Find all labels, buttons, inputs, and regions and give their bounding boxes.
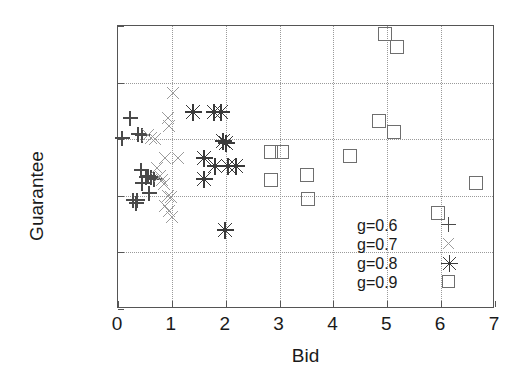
data-point-asterisk bbox=[216, 221, 233, 238]
x-axis-title: Bid bbox=[117, 345, 494, 367]
data-point-asterisk bbox=[206, 158, 223, 175]
data-point-cross bbox=[158, 150, 173, 165]
x-axis-tick bbox=[172, 301, 173, 307]
x-axis-tick-label: 6 bbox=[435, 314, 446, 333]
data-point-plus bbox=[115, 130, 130, 145]
data-point-square bbox=[300, 191, 315, 206]
gridline-vertical bbox=[333, 26, 334, 307]
data-point-cross bbox=[144, 130, 159, 145]
data-point-plus bbox=[139, 170, 154, 185]
x-axis-tick-label: 0 bbox=[112, 314, 123, 333]
data-point-square bbox=[264, 173, 279, 188]
legend-item-g-0-6: g=0.6 bbox=[357, 216, 397, 235]
data-point-cross bbox=[140, 127, 155, 142]
data-point-plus bbox=[135, 176, 150, 191]
data-point-plus bbox=[144, 170, 159, 185]
data-point-cross bbox=[157, 177, 172, 192]
x-axis-tick-label: 7 bbox=[489, 314, 500, 333]
y-axis-title: Guarantee bbox=[26, 151, 48, 241]
data-point-cross bbox=[155, 173, 170, 188]
data-point-asterisk bbox=[196, 149, 213, 166]
plot-area bbox=[117, 25, 494, 308]
data-point-square bbox=[264, 144, 279, 159]
legend-label: g=0.9 bbox=[357, 275, 397, 291]
data-point-cross bbox=[158, 198, 173, 213]
x-axis-tick bbox=[495, 301, 496, 307]
scatter-chart: 00.20.40.60.81 01234567 Guarantee Bid g=… bbox=[0, 0, 525, 392]
data-point-square bbox=[372, 113, 387, 128]
data-point-square bbox=[389, 40, 404, 55]
data-point-asterisk bbox=[228, 158, 245, 175]
legend-item-g-0-7: g=0.7 bbox=[357, 235, 397, 254]
x-axis-tick-label: 1 bbox=[166, 314, 177, 333]
data-point-plus bbox=[126, 193, 141, 208]
gridline-vertical bbox=[172, 26, 173, 307]
x-axis-tick bbox=[118, 301, 119, 307]
y-axis-tick bbox=[118, 196, 124, 197]
legend-label: g=0.7 bbox=[357, 237, 397, 253]
legend-marker-asterisk-icon bbox=[441, 255, 459, 273]
data-point-plus bbox=[141, 168, 156, 183]
data-point-square bbox=[386, 125, 401, 140]
x-axis-tick bbox=[280, 301, 281, 307]
data-point-cross bbox=[153, 168, 168, 183]
data-point-asterisk bbox=[213, 104, 230, 121]
gridline-horizontal bbox=[118, 83, 493, 84]
data-point-cross bbox=[165, 85, 180, 100]
x-axis-tick bbox=[226, 301, 227, 307]
data-point-square bbox=[275, 144, 290, 159]
y-axis-tick bbox=[118, 252, 124, 253]
data-point-asterisk bbox=[185, 104, 202, 121]
data-point-cross bbox=[149, 160, 164, 175]
data-point-cross bbox=[163, 190, 178, 205]
y-axis-tick bbox=[118, 26, 124, 27]
legend-item-g-0-9: g=0.9 bbox=[357, 273, 397, 292]
legend-marker-plus-icon bbox=[441, 217, 459, 235]
x-axis-tick bbox=[441, 301, 442, 307]
x-axis-tick bbox=[333, 301, 334, 307]
data-point-cross bbox=[171, 150, 186, 165]
data-point-square bbox=[469, 176, 484, 191]
data-point-square bbox=[342, 149, 357, 164]
gridline-vertical bbox=[226, 26, 227, 307]
gridline-horizontal bbox=[118, 139, 493, 140]
data-point-plus bbox=[133, 163, 148, 178]
data-point-cross bbox=[162, 119, 177, 134]
x-axis-tick-label: 3 bbox=[273, 314, 284, 333]
data-point-cross bbox=[162, 204, 177, 219]
legend-marker-cross-icon bbox=[441, 236, 459, 254]
legend-label: g=0.6 bbox=[357, 218, 397, 234]
gridline-horizontal bbox=[118, 196, 493, 197]
data-point-plus bbox=[128, 195, 143, 210]
x-axis-tick-label: 2 bbox=[219, 314, 230, 333]
x-axis-tick-label: 5 bbox=[381, 314, 392, 333]
data-point-plus bbox=[142, 185, 157, 200]
y-axis-tick bbox=[118, 83, 124, 84]
data-point-plus bbox=[146, 171, 161, 186]
y-axis-tick bbox=[118, 139, 124, 140]
legend-label: g=0.8 bbox=[357, 256, 397, 272]
gridline-vertical bbox=[280, 26, 281, 307]
legend-item-g-0-8: g=0.8 bbox=[357, 254, 397, 273]
x-axis-tick-label: 4 bbox=[327, 314, 338, 333]
x-axis-tick bbox=[387, 301, 388, 307]
data-point-square bbox=[377, 27, 392, 42]
legend-marker-square-icon bbox=[441, 274, 459, 292]
data-point-plus bbox=[134, 127, 149, 142]
data-point-asterisk bbox=[220, 158, 237, 175]
chart-legend: g=0.6g=0.7g=0.8g=0.9 bbox=[357, 216, 397, 292]
y-axis-tick bbox=[118, 309, 124, 310]
data-point-square bbox=[299, 167, 314, 182]
gridline-horizontal bbox=[118, 252, 493, 253]
data-point-asterisk bbox=[205, 104, 222, 121]
data-point-asterisk bbox=[196, 170, 213, 187]
data-point-asterisk bbox=[215, 132, 232, 149]
data-point-plus bbox=[122, 110, 137, 125]
data-point-plus bbox=[130, 193, 145, 208]
